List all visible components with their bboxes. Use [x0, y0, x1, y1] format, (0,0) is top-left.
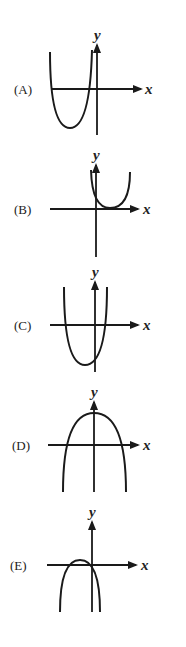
option-b-graph[interactable]: (B) x y — [14, 147, 151, 257]
option-c-graph[interactable]: (C) x y — [14, 264, 151, 372]
x-axis-label: x — [140, 557, 149, 573]
option-e-label: (E) — [10, 558, 27, 573]
x-axis-label: x — [142, 437, 151, 453]
x-axis-label: x — [142, 201, 151, 217]
y-axis-label: y — [91, 147, 100, 163]
x-axis-label: x — [142, 317, 151, 333]
option-a-label: (A) — [14, 82, 32, 97]
parabola-curve — [60, 560, 100, 612]
x-axis-label: x — [144, 81, 153, 97]
y-axis-label: y — [89, 384, 98, 400]
y-axis-label: y — [92, 27, 101, 43]
y-axis-label: y — [90, 264, 99, 280]
option-a-graph[interactable]: (A) x y — [14, 27, 153, 135]
option-d-graph[interactable]: (D) x y — [12, 384, 151, 492]
y-axis-label: y — [87, 504, 96, 520]
option-d-label: (D) — [12, 438, 30, 453]
parabola-curve — [64, 287, 107, 365]
option-c-label: (C) — [14, 318, 31, 333]
parabola-options-figure: (A) x y (B) x y (C) x y (D) x y (E) x — [0, 0, 186, 647]
option-b-label: (B) — [14, 202, 31, 217]
option-e-graph[interactable]: (E) x y — [10, 504, 149, 612]
